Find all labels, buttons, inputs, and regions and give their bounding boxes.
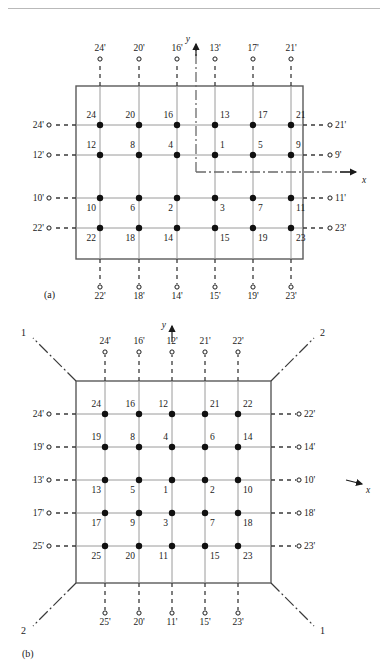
port-label: 22' bbox=[33, 223, 45, 233]
port-label: 10' bbox=[304, 475, 316, 485]
diagonal-top-left bbox=[33, 338, 76, 381]
node-dot bbox=[250, 152, 256, 158]
panel-a-right-port-circles bbox=[328, 123, 332, 230]
panel-b-corner-label-top-left: 1 bbox=[21, 327, 26, 338]
node-label: 1 bbox=[163, 485, 168, 495]
node-dot bbox=[288, 195, 294, 201]
port-label: 19' bbox=[33, 442, 45, 452]
node-label: 12 bbox=[87, 140, 97, 150]
node-label: 25 bbox=[92, 551, 102, 561]
node-label: 7 bbox=[258, 203, 263, 213]
node-dot bbox=[212, 152, 218, 158]
node-dot bbox=[97, 195, 103, 201]
port-label: 25' bbox=[33, 541, 45, 551]
node-label: 17 bbox=[92, 518, 102, 528]
node-dot bbox=[102, 543, 108, 549]
panel-b-top-port-leads bbox=[105, 355, 238, 381]
figure-page: y x 24' 20' 16' 13' 17' 21' bbox=[0, 0, 388, 665]
node-label: 19 bbox=[258, 233, 268, 243]
node-dot bbox=[97, 225, 103, 231]
panel-b-x-axis-label: x bbox=[365, 485, 371, 495]
node-label: 20 bbox=[126, 110, 136, 120]
node-dot bbox=[102, 477, 108, 483]
node-label: 1 bbox=[220, 140, 225, 150]
port-label: 18' bbox=[133, 291, 145, 301]
node-dot bbox=[169, 444, 175, 450]
node-dot bbox=[136, 411, 142, 417]
diagonal-bottom-right bbox=[271, 583, 314, 626]
node-dot bbox=[250, 122, 256, 128]
port-label: 23' bbox=[335, 223, 347, 233]
node-label: 6 bbox=[210, 432, 215, 442]
node-dot bbox=[169, 411, 175, 417]
panel-b-corner-label-bottom-right: 1 bbox=[320, 625, 325, 636]
panel-b-right-port-leads bbox=[271, 414, 296, 546]
node-label: 15 bbox=[210, 551, 220, 561]
node-dot bbox=[202, 543, 208, 549]
node-label: 4 bbox=[163, 432, 168, 442]
node-label: 7 bbox=[210, 518, 215, 528]
node-label: 23 bbox=[243, 551, 253, 561]
node-dot bbox=[174, 195, 180, 201]
node-label: 18 bbox=[243, 518, 253, 528]
node-dot bbox=[174, 225, 180, 231]
node-dot bbox=[212, 122, 218, 128]
panel-a-node-labels-row-4: 22 18 14 15 19 23 bbox=[87, 233, 306, 243]
port-label: 13' bbox=[33, 475, 45, 485]
node-label: 5 bbox=[258, 140, 263, 150]
node-dot bbox=[102, 411, 108, 417]
node-dot bbox=[235, 510, 241, 516]
node-label: 23 bbox=[296, 233, 306, 243]
panel-b-corner-label-bottom-left: 2 bbox=[21, 625, 26, 636]
node-dot bbox=[202, 444, 208, 450]
port-label: 15' bbox=[209, 291, 221, 301]
panel-b-corner-label-top-right: 2 bbox=[320, 327, 325, 338]
port-label: 24' bbox=[33, 120, 45, 130]
node-dot bbox=[169, 510, 175, 516]
node-label: 21 bbox=[296, 110, 306, 120]
port-label: 22' bbox=[94, 291, 106, 301]
node-label: 6 bbox=[130, 203, 135, 213]
node-label: 20 bbox=[126, 551, 136, 561]
node-label: 17 bbox=[258, 110, 268, 120]
node-label: 8 bbox=[130, 140, 135, 150]
node-dot bbox=[235, 543, 241, 549]
port-label: 24' bbox=[33, 409, 45, 419]
port-label: 20' bbox=[133, 43, 145, 53]
node-label: 13 bbox=[92, 485, 102, 495]
node-label: 16 bbox=[164, 110, 174, 120]
node-label: 3 bbox=[220, 203, 225, 213]
port-label: 24' bbox=[99, 336, 111, 346]
node-label: 14 bbox=[164, 233, 174, 243]
node-label: 19 bbox=[92, 432, 102, 442]
panel-a-y-axis-label: y bbox=[185, 34, 191, 44]
node-dot bbox=[97, 122, 103, 128]
panel-b-left-port-leads bbox=[52, 414, 76, 546]
panel-b-x-axis-arrow bbox=[346, 480, 362, 484]
node-label: 2 bbox=[210, 485, 215, 495]
node-label: 18 bbox=[126, 233, 136, 243]
panel-b-top-port-labels: 24' 16' 12' 21' 22' bbox=[99, 336, 244, 346]
node-dot bbox=[235, 477, 241, 483]
node-label: 11 bbox=[159, 551, 168, 561]
port-label: 13' bbox=[209, 43, 221, 53]
node-dot bbox=[169, 543, 175, 549]
port-label: 14' bbox=[304, 442, 316, 452]
node-dot bbox=[212, 195, 218, 201]
panel-b-left-port-labels: 24' 19' 13' 17' 25' bbox=[33, 409, 45, 551]
node-label: 15 bbox=[220, 233, 230, 243]
port-label: 10' bbox=[33, 193, 45, 203]
node-label: 13 bbox=[220, 110, 230, 120]
node-dot bbox=[136, 152, 142, 158]
port-label: 18' bbox=[304, 508, 316, 518]
port-label: 12' bbox=[33, 150, 45, 160]
node-dot bbox=[102, 444, 108, 450]
node-dot bbox=[202, 477, 208, 483]
panel-a-right-port-labels: 21' 9' 11' 23' bbox=[335, 120, 347, 233]
node-label: 22 bbox=[243, 399, 253, 409]
node-label: 22 bbox=[87, 233, 97, 243]
panel-b-caption: (b) bbox=[22, 648, 34, 660]
node-dot bbox=[288, 152, 294, 158]
node-dot bbox=[136, 543, 142, 549]
node-label: 3 bbox=[163, 518, 168, 528]
